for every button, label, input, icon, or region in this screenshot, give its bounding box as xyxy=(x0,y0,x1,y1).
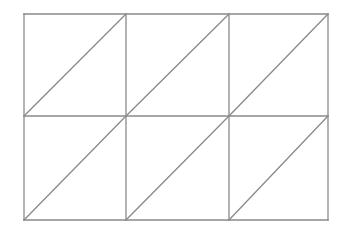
triangulated-grid-diagram xyxy=(0,0,346,238)
diagonal-r0-c2 xyxy=(229,14,328,116)
diagonal-r1-c0 xyxy=(24,116,126,220)
cell-diagonals xyxy=(24,14,328,220)
grid-lines xyxy=(24,14,328,220)
diagonal-r1-c2 xyxy=(229,116,328,220)
diagonal-r0-c0 xyxy=(24,14,126,116)
diagonal-r0-c1 xyxy=(126,14,229,116)
diagonal-r1-c1 xyxy=(126,116,229,220)
